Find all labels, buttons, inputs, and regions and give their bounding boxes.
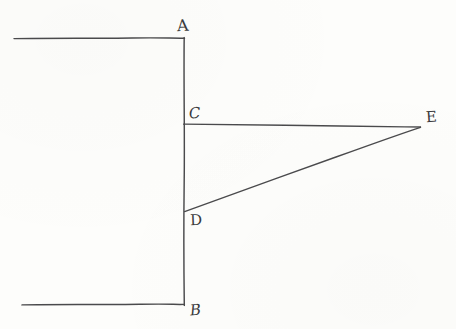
point-label-b: B <box>189 302 202 318</box>
segment-diagonal-de <box>185 127 421 211</box>
segment-bottom-arm <box>22 304 184 305</box>
segment-horizontal-ce <box>184 124 421 127</box>
point-label-a: A <box>177 18 189 35</box>
point-label-e: E <box>425 110 437 126</box>
segment-vertical-ab <box>184 38 185 306</box>
point-label-d: D <box>190 213 203 228</box>
geometry-figure <box>0 0 456 329</box>
segment-top-arm <box>14 38 185 39</box>
point-label-c: C <box>188 106 201 122</box>
diagram-canvas: A C E D B <box>0 0 456 329</box>
